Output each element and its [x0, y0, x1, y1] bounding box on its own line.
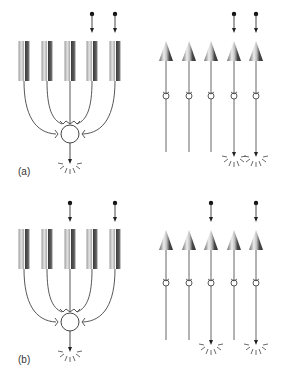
output-arrow-a-5 — [254, 152, 258, 157]
ganglion-cell-a — [61, 125, 79, 143]
spark-icon-b-5 — [244, 344, 268, 355]
output-arrow-a — [68, 159, 72, 164]
ganglion-cell-b — [61, 313, 79, 331]
stimulus-a-cone-4 — [232, 12, 236, 33]
spark-icon-b-3 — [199, 344, 223, 355]
cone-a-5 — [249, 41, 263, 61]
rod-b-2 — [42, 229, 53, 269]
rod-b-3 — [65, 229, 76, 269]
stimulus-b-rod-3 — [68, 201, 72, 222]
cone-a-2 — [182, 41, 196, 61]
stimulus-b-rod-5 — [113, 201, 117, 222]
spark-icon-a-4 — [222, 156, 246, 167]
stimulus-b-cone-5 — [254, 201, 258, 222]
rod-b-1 — [19, 229, 30, 269]
cone-a-4 — [227, 41, 241, 61]
cone-a-1 — [159, 41, 173, 61]
stimulus-a-rod-4 — [90, 12, 94, 33]
panel-b — [19, 201, 269, 362]
cone-lines-a — [159, 12, 268, 167]
spark-icon-a — [58, 163, 82, 174]
output-arrow-b — [68, 347, 72, 352]
panel-label-a: (a) — [18, 166, 30, 177]
spark-icon-a-5 — [244, 156, 268, 167]
stimulus-b-cone-3 — [209, 201, 213, 222]
stimulus-a-cone-5 — [254, 12, 258, 33]
cone-lines-b — [159, 201, 268, 355]
output-arrow-b-5 — [254, 340, 258, 345]
rod-a-2 — [42, 41, 53, 81]
rod-a-5 — [110, 41, 121, 81]
rod-convergence-a — [19, 12, 121, 174]
rod-b-5 — [110, 229, 121, 269]
cone-b-2 — [182, 230, 196, 250]
cone-a-3 — [204, 41, 218, 61]
panel-a — [19, 12, 269, 174]
panel-label-b: (b) — [18, 354, 30, 365]
rod-a-1 — [19, 41, 30, 81]
rod-convergence-b — [19, 201, 121, 362]
cone-b-1 — [159, 230, 173, 250]
cone-b-4 — [227, 230, 241, 250]
cone-b-3 — [204, 230, 218, 250]
output-arrow-a-4 — [232, 152, 236, 157]
cone-b-5 — [249, 230, 263, 250]
rod-b-4 — [87, 229, 98, 269]
rod-a-4 — [87, 41, 98, 81]
spark-icon-b — [58, 351, 82, 362]
convergence-diagram — [0, 0, 286, 383]
stimulus-a-rod-5 — [113, 12, 117, 33]
output-arrow-b-3 — [209, 340, 213, 345]
rod-a-3 — [65, 41, 76, 81]
